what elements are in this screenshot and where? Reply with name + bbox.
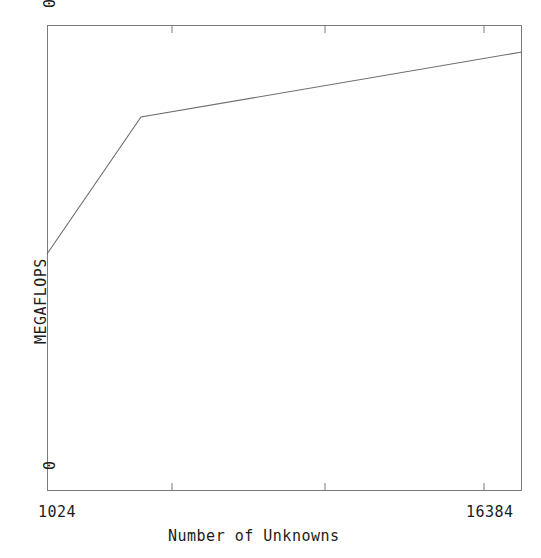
y-axis-title: MEGAFLOPS — [32, 258, 50, 344]
y-axis-tick-label-bottom: 0 — [41, 460, 59, 470]
y-axis-tick-label-top: 0.5 — [41, 0, 59, 8]
x-axis-tick-label-right: 16384 — [466, 503, 514, 521]
x-axis-tick-label-left: 1024 — [38, 503, 76, 521]
chart-screenshot: 0.5 0 1024 16384 MEGAFLOPS Number of Unk… — [0, 0, 541, 558]
plot-frame — [47, 25, 522, 491]
x-axis-title: Number of Unknowns — [168, 527, 340, 545]
